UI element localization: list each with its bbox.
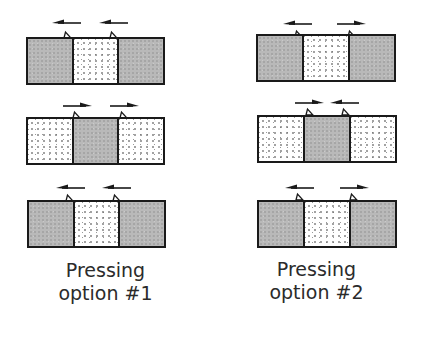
arrow-right-icon [294, 99, 324, 107]
arrow-left-icon [285, 184, 315, 192]
arrow-right-icon [109, 102, 139, 110]
caption-line-1: Pressing [0, 259, 211, 282]
fabric-strip [257, 200, 397, 248]
segment-dotted [259, 117, 303, 161]
arrow-left-icon [52, 19, 82, 27]
caption-line-1: Pressing [211, 258, 422, 281]
fabric-strip [27, 200, 166, 248]
segment-gray [259, 202, 303, 246]
option-1-row-1 [0, 10, 211, 80]
segment-gray [117, 39, 163, 83]
arrow-right-icon [62, 102, 92, 110]
fabric-strip [26, 117, 165, 165]
fabric-strip [26, 37, 165, 85]
pressing-option-1: Pressing option #1 [0, 0, 211, 344]
arrow-left-icon [99, 19, 129, 27]
caption-line-2: option #1 [0, 282, 211, 305]
fabric-strip [257, 115, 397, 163]
caption-option-2: Pressing option #2 [211, 258, 422, 304]
segment-gray [29, 202, 73, 246]
segment-dotted [73, 202, 119, 246]
segment-gray [303, 117, 349, 161]
segment-gray [118, 202, 164, 246]
fabric-strip [256, 34, 396, 82]
caption-option-1: Pressing option #1 [0, 259, 211, 305]
arrow-left-icon [102, 184, 132, 192]
segment-dotted [302, 36, 348, 80]
segment-gray [72, 119, 118, 163]
option-2-row-2 [211, 88, 422, 158]
arrow-left-icon [56, 184, 86, 192]
segment-gray [28, 39, 72, 83]
segment-dotted [117, 119, 163, 163]
arrow-right-icon [339, 184, 369, 192]
caption-line-2: option #2 [211, 281, 422, 304]
option-2-row-1 [211, 8, 422, 78]
option-1-row-2 [0, 90, 211, 160]
option-2-row-3 [211, 172, 422, 242]
pressing-option-2: Pressing option #2 [211, 0, 422, 344]
segment-dotted [28, 119, 72, 163]
segment-gray [349, 202, 395, 246]
arrow-right-icon [336, 20, 366, 28]
segment-dotted [349, 117, 395, 161]
segment-gray [348, 36, 394, 80]
segment-gray [258, 36, 302, 80]
arrow-left-icon [330, 99, 360, 107]
segment-dotted [303, 202, 349, 246]
arrow-left-icon [283, 20, 313, 28]
option-1-row-3 [0, 172, 211, 242]
segment-dotted [72, 39, 118, 83]
